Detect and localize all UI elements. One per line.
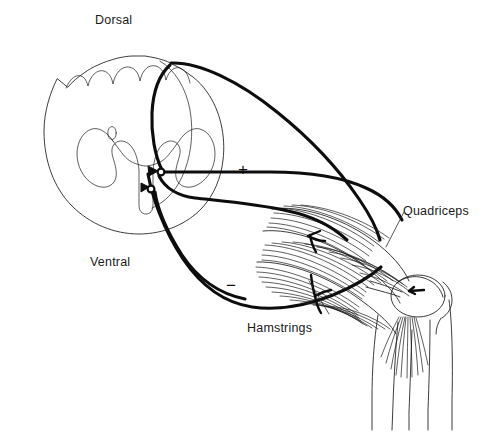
label-inhibitory-sign: − bbox=[226, 276, 236, 295]
label-hamstrings: Hamstrings bbox=[247, 321, 312, 335]
label-dorsal: Dorsal bbox=[95, 13, 132, 27]
motor-neuron-soma-alpha bbox=[158, 169, 165, 176]
figure-root: Dorsal Ventral Quadriceps Hamstrings + − bbox=[0, 0, 482, 434]
label-quadriceps: Quadriceps bbox=[403, 204, 469, 218]
label-ventral: Ventral bbox=[90, 255, 130, 269]
label-excitatory-sign: + bbox=[238, 160, 248, 179]
reflex-arc-diagram: Dorsal Ventral Quadriceps Hamstrings + − bbox=[0, 0, 482, 434]
